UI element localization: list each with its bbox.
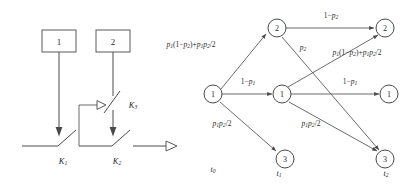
- edge-label-t1_2-to-t2_2: 1−p2: [324, 11, 339, 20]
- figure-canvas: 1 2 K1 K2 K3 1 2 1: [0, 0, 418, 185]
- circuit-box-1-label: 1: [57, 37, 62, 47]
- circuit-output-arrow-icon: [166, 141, 177, 151]
- lead-box1-arrowhead: [56, 127, 63, 137]
- node-t2-state-2-label: 2: [383, 24, 387, 33]
- node-t2-state-1-label: 1: [387, 90, 391, 99]
- edge-label-t0_1-to-t1_3: p1p2/2: [212, 119, 232, 128]
- edge-label-t1_1-to-t2_1: 1−p1: [343, 77, 358, 86]
- lead-k3-arrowhead: [110, 127, 117, 137]
- edge-label-t1_2-to-t2_3: p2: [299, 43, 307, 52]
- edge-label-t0_1-to-t1_2: p1(1−p2)+p1p2/2: [165, 40, 215, 49]
- edge-label-t0_1-to-t1_1: 1−p1: [241, 77, 256, 86]
- circuit-box-2-label: 2: [111, 37, 116, 47]
- time-label-t0: t0: [210, 165, 215, 174]
- k2-switch-blade: [112, 130, 130, 146]
- edge-label-t1_1-to-t2_3: p1p2/2: [301, 119, 321, 128]
- k2-label: K2: [112, 156, 122, 166]
- edge-label-t1_1-to-t2_2: p1(1−p2)+p1p2/2: [331, 48, 381, 57]
- k1-switch-blade: [58, 130, 76, 146]
- time-label-t2: t2: [383, 169, 388, 178]
- k1-label: K1: [58, 156, 68, 166]
- circuit-panel: 1 2 K1 K2 K3: [22, 30, 177, 166]
- node-t2-state-3-label: 3: [383, 155, 387, 164]
- node-t1-state-2-label: 2: [275, 24, 279, 33]
- k3-switch-blade: [104, 91, 120, 113]
- k3-control-triangle-icon: [97, 101, 106, 110]
- node-t1-state-3-label: 3: [283, 155, 287, 164]
- time-label-t1: t1: [276, 169, 281, 178]
- k3-label: K3: [128, 100, 138, 110]
- node-t0-state-1-label: 1: [211, 90, 215, 99]
- figure-svg: 1 2 K1 K2 K3 1 2 1: [0, 0, 418, 185]
- trellis-panel: 1 2 1 3 2 1 3 p1(1−p2)+p1p2/2 1−p1: [165, 11, 398, 178]
- node-t1-state-1-label: 1: [280, 90, 284, 99]
